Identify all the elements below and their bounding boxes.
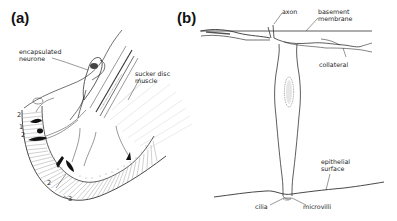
label-cilia: cilia [255, 203, 268, 210]
layer-number: 2 [17, 111, 21, 119]
label-basement-membrane: basement membrane [318, 8, 352, 22]
layer-number: 3 [68, 195, 72, 203]
leader-collateral [343, 48, 346, 57]
panel-b-drawing [200, 13, 384, 205]
figure-illustration [0, 0, 397, 221]
epithelium-inner [42, 106, 154, 182]
panel-label-a: (a) [11, 9, 29, 26]
label-collateral: collateral [319, 61, 348, 68]
receptor-cell-body [275, 44, 283, 196]
label-epithelial-surface: epithelial surface [321, 158, 350, 172]
tissue-outline [24, 30, 122, 108]
receptor-cell [30, 119, 42, 123]
axon [268, 25, 274, 38]
label-encapsulated-neurone: encapsulated neurone [19, 48, 61, 62]
collateral-fibre [274, 38, 362, 47]
label-axon: axon [282, 8, 297, 15]
leader-epithelial-surface [326, 174, 330, 190]
layer-number: 1 [19, 123, 23, 131]
cilia-tuft [283, 196, 292, 201]
label-sucker-disc-muscle: sucker disc muscle [135, 70, 170, 84]
layer-number: 2 [21, 131, 25, 139]
leader-axon [274, 13, 282, 24]
leader-cilia [270, 198, 284, 205]
leader-basement-membrane [306, 18, 318, 31]
layer-number: 2 [47, 179, 51, 187]
receptor-cell [66, 160, 74, 172]
label-microvilli: microvilli [303, 203, 331, 210]
receptor-cell [56, 156, 64, 168]
receptor-cell [126, 152, 131, 160]
panel-label-b: (b) [177, 9, 196, 26]
epithelial-surface-line [214, 182, 384, 197]
